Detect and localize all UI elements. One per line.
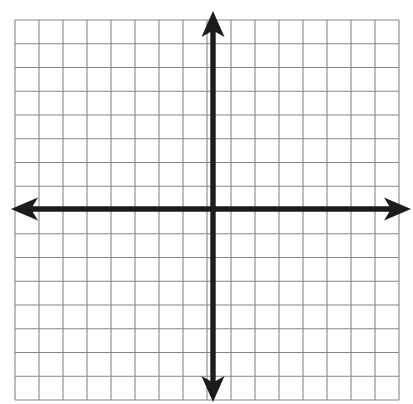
coordinate-plane-figure	[0, 0, 413, 404]
coordinate-grid-page: x, y	[0, 0, 413, 404]
